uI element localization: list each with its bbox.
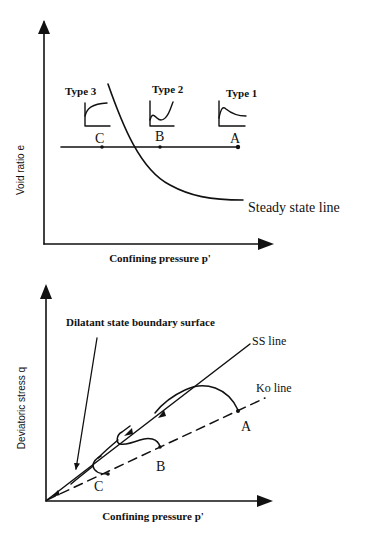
steady-state-line-label: Steady state line [248, 200, 340, 215]
bottom-x-axis-label: Confining pressure p' [102, 510, 204, 522]
point-c-marker-bottom [106, 472, 110, 476]
type-2-label: Type 2 [152, 83, 184, 95]
ko-line-label: Ko line [256, 381, 292, 395]
top-x-axis-label: Confining pressure p' [109, 252, 211, 264]
ss-line-label: SS line [252, 334, 286, 348]
point-b-label-bottom: B [156, 459, 165, 474]
stress-path-a [155, 386, 238, 413]
type-1-label: Type 1 [226, 87, 257, 99]
point-b-marker [158, 145, 162, 149]
bottom-diagram: Deviatoric stress q Confining pressure p… [16, 284, 292, 522]
type-3-mini-graph [85, 103, 110, 126]
dilatant-boundary-pointer-arrow [76, 338, 97, 469]
dilatant-boundary-label: Dilatant state boundary surface [66, 316, 215, 328]
point-c-label: C [95, 131, 104, 146]
type-2-mini-graph [150, 101, 174, 126]
figure: Void ratio e Confining pressure p' Stead… [0, 0, 371, 535]
top-x-axis-arrow-icon [258, 238, 274, 250]
type-3-label: Type 3 [65, 85, 97, 97]
top-y-axis-arrow-icon [38, 20, 50, 34]
top-y-axis-label: Void ratio e [15, 145, 26, 195]
point-a-marker-bottom [236, 409, 240, 413]
bottom-y-axis-arrow-icon [40, 284, 52, 299]
point-b-label: B [155, 129, 164, 144]
type-1-mini-graph [219, 101, 246, 126]
stress-path-c-tail [71, 466, 93, 484]
bottom-y-axis-label: Deviatoric stress q [16, 367, 27, 449]
top-diagram: Void ratio e Confining pressure p' Stead… [15, 20, 340, 264]
ss-line [47, 344, 250, 500]
bottom-x-axis-arrow-icon [257, 495, 273, 507]
point-c-label-bottom: C [94, 479, 103, 494]
point-b-marker-bottom [158, 445, 162, 449]
point-a-label: A [230, 131, 241, 146]
steady-state-line [108, 84, 243, 200]
point-a-label-bottom: A [241, 419, 252, 434]
